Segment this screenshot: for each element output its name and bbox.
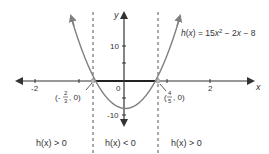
root-label-left: (- 2 3 , 0): [55, 90, 81, 104]
root-left-pointer: [86, 83, 92, 90]
svg-text:3: 3: [64, 98, 68, 104]
region-label-right: h(x) > 0: [171, 138, 202, 148]
tick-label-2: 2: [208, 84, 213, 93]
region-label-left: h(x) > 0: [36, 138, 67, 148]
tick-label-10: 10: [110, 42, 119, 51]
svg-text:, 0): , 0): [173, 93, 185, 102]
graph: y x 10 -10 0 -2 2 h(x) = 15x2 − 2x − 8 (…: [0, 0, 269, 154]
svg-text:2: 2: [64, 90, 68, 96]
y-axis-label: y: [113, 10, 119, 20]
tick-label-neg10: -10: [107, 111, 119, 120]
tick-label-neg2: -2: [31, 84, 39, 93]
x-axis-label: x: [255, 82, 261, 92]
function-label: h(x) = 15x2 − 2x − 8: [181, 28, 256, 38]
svg-text:(: (: [164, 93, 167, 102]
root-point-left: [91, 79, 95, 83]
svg-text:5: 5: [168, 98, 172, 104]
svg-text:4: 4: [168, 90, 172, 96]
region-label-middle: h(x) < 0: [105, 138, 136, 148]
curve-arrow-left: [71, 16, 74, 26]
root-right-pointer: [160, 84, 166, 91]
root-label-right: ( 4 5 , 0): [164, 90, 185, 104]
tick-label-0: 0: [116, 84, 121, 93]
curve-arrow-right: [177, 16, 180, 26]
root-point-right: [156, 79, 160, 83]
svg-text:(-: (-: [55, 93, 61, 102]
svg-text:, 0): , 0): [69, 93, 81, 102]
